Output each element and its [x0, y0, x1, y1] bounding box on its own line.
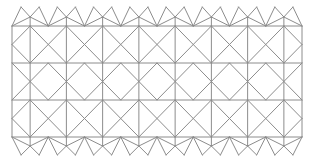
pattern-lines	[12, 7, 302, 155]
tessellation-diagram	[0, 0, 314, 167]
